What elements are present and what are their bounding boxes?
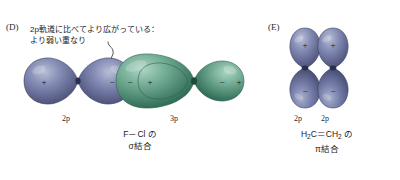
panel-e-orbitals: + + − − <box>288 26 354 110</box>
sign-3p-left-outer: − <box>127 77 132 87</box>
caption-e-formula-suffix: の <box>342 129 353 139</box>
sign-3p-right-outer: + <box>236 77 241 87</box>
panel-e-label-2p-left: 2p <box>294 114 302 123</box>
sign-left-top: + <box>302 40 307 50</box>
sign-right-top: + <box>330 40 335 50</box>
sign-left-bottom: − <box>302 86 307 96</box>
caption-e-line-1: H2C＝CH2 の <box>284 128 370 143</box>
panel-d-annotation: 2p軌道に比べてより広がっている： より弱い重なり <box>30 24 175 46</box>
caption-e-formula-mid: C＝CH <box>311 129 338 139</box>
orbital-overlap-figure: (D) 2p軌道に比べてより広がっている： より弱い重なり <box>0 0 400 180</box>
annotation-line-2: より弱い重なり <box>30 35 175 46</box>
caption-d-line-2: σ結合 <box>100 140 180 152</box>
caption-e-line-2: π結合 <box>284 143 370 155</box>
panel-e-label-2p-right: 2p <box>321 114 329 123</box>
panel-d-caption: F－Cl の σ結合 <box>100 128 180 152</box>
caption-d-line-1: F－Cl の <box>100 128 180 140</box>
orbital-3p-green <box>116 54 244 108</box>
panel-d-label-3p: 3p <box>170 114 178 123</box>
panel-e-caption: H2C＝CH2 の π結合 <box>284 128 370 155</box>
sign-2p-right: − <box>109 77 114 87</box>
sign-2p-left: + <box>41 77 46 87</box>
sign-3p-left-inner: + <box>147 77 152 87</box>
sign-3p-right-inner: − <box>219 77 224 87</box>
annotation-line-1: 2p軌道に比べてより広がっている： <box>30 24 175 35</box>
panel-d-orbitals: + − − + − + <box>22 52 247 110</box>
panel-d-label-2p: 2p <box>62 114 70 123</box>
sign-right-bottom: − <box>330 86 335 96</box>
panel-d-letter: (D) <box>6 22 19 32</box>
panel-e-letter: (E) <box>268 22 280 32</box>
